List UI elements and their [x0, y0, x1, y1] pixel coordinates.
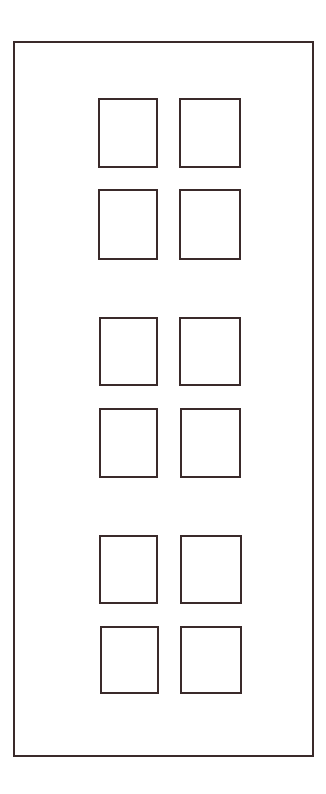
panel-g1-r2-c1 [98, 189, 158, 260]
panel-g2-r1-c2 [179, 317, 241, 386]
panel-g2-r2-c1 [99, 408, 158, 478]
panel-g1-r2-c2 [179, 189, 241, 260]
panel-g2-r2-c2 [180, 408, 241, 478]
panel-g3-r2-c2 [180, 626, 242, 694]
panel-g3-r2-c1 [100, 626, 159, 694]
panel-g1-r1-c2 [179, 98, 241, 168]
panel-g2-r1-c1 [99, 317, 158, 386]
panel-g3-r1-c1 [99, 535, 158, 604]
panel-g3-r1-c2 [180, 535, 242, 604]
outer-frame [13, 41, 314, 757]
panel-g1-r1-c1 [98, 98, 158, 168]
